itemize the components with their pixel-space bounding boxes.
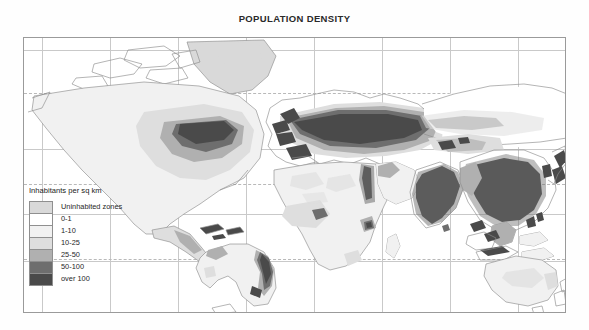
map-frame[interactable]: Inhabitants per sq km Uninhabited zones … (23, 37, 566, 313)
legend-label: 10-25 (61, 239, 80, 246)
legend-label: 0-1 (61, 215, 72, 222)
legend-label: 50-100 (61, 263, 84, 270)
legend-label: 1-10 (61, 227, 76, 234)
legend-heading: Inhabitants per sq km (29, 187, 149, 195)
map-canvas[interactable]: Inhabitants per sq km Uninhabited zones … (24, 38, 565, 312)
legend-swatch (29, 273, 53, 286)
legend-label: over 100 (61, 275, 90, 282)
page-title: POPULATION DENSITY (0, 13, 589, 24)
legend-label: Uninhabited zones (61, 203, 122, 210)
legend: Inhabitants per sq km Uninhabited zones … (29, 187, 149, 285)
legend-label: 25-50 (61, 251, 80, 258)
population-density-map-page: POPULATION DENSITY (0, 0, 589, 330)
legend-item-over-100[interactable]: over 100 (29, 273, 149, 286)
